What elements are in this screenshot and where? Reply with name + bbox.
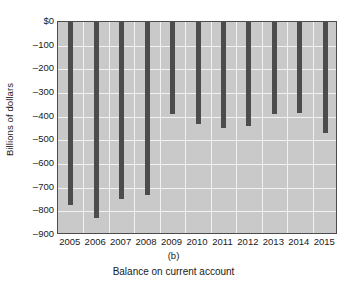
x-tick-label: 2013 — [263, 236, 284, 248]
y-tick-label: –500 — [33, 134, 54, 144]
bar — [272, 22, 277, 114]
x-tick-label: 2010 — [186, 236, 207, 248]
bar — [221, 22, 226, 128]
x-tick-label: 2008 — [136, 236, 157, 248]
x-tick-label: 2012 — [237, 236, 258, 248]
bar — [323, 22, 328, 133]
y-tick-label: –300 — [33, 87, 54, 97]
y-tick-label: –800 — [33, 205, 54, 215]
y-tick-label: –100 — [33, 40, 54, 50]
y-tick-label: –700 — [33, 182, 54, 192]
chart-caption: Balance on current account — [0, 266, 347, 277]
x-tick-label: 2011 — [212, 236, 232, 248]
panel-label: (b) — [0, 250, 347, 261]
x-tick-label: 2009 — [161, 236, 182, 248]
bar-series — [58, 22, 336, 233]
bar — [145, 22, 150, 195]
x-tick-label: 2006 — [85, 236, 106, 248]
x-tick-label: 2015 — [314, 236, 335, 248]
bar — [196, 22, 201, 124]
y-axis-tick-labels: $0–100–200–300–400–500–600–700–800–900 — [18, 0, 56, 238]
bar — [68, 22, 73, 205]
x-axis-tick-labels: 2005200620072008200920102011201220132014… — [57, 236, 337, 250]
bar — [246, 22, 251, 126]
y-tick-label: –400 — [33, 111, 54, 121]
x-tick-label: 2014 — [288, 236, 309, 248]
x-tick-label: 2007 — [110, 236, 131, 248]
y-tick-label: –200 — [33, 63, 54, 73]
bar — [119, 22, 124, 199]
y-tick-label: $0 — [43, 16, 54, 26]
y-axis-title: Billions of dollars — [2, 0, 18, 238]
y-tick-label: –900 — [33, 229, 54, 239]
bar — [170, 22, 175, 114]
bar — [94, 22, 99, 218]
chart-figure: Billions of dollars $0–100–200–300–400–5… — [0, 0, 347, 290]
y-tick-label: –600 — [33, 158, 54, 168]
x-tick-label: 2005 — [59, 236, 80, 248]
bar — [297, 22, 302, 113]
y-axis-title-text: Billions of dollars — [5, 82, 16, 155]
plot-area — [57, 21, 337, 234]
